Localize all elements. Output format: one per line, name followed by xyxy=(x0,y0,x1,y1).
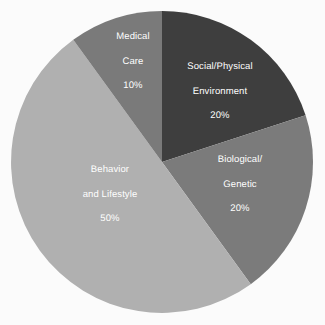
pie-chart-canvas xyxy=(0,0,325,325)
pie-slices xyxy=(11,11,313,313)
pie-chart: Social/Physical Environment 20% Biologic… xyxy=(0,0,325,325)
